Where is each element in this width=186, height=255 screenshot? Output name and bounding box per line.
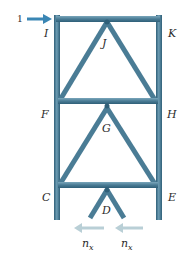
node-label-I: I: [44, 28, 48, 39]
reaction-arrow-left-icon: [74, 223, 104, 233]
joint-J: [105, 20, 110, 25]
joint-G: [105, 104, 110, 109]
node-label-D: D: [102, 205, 111, 216]
member-CG: [60, 108, 107, 184]
node-label-G: G: [102, 123, 111, 134]
load-arrow-icon: [27, 14, 52, 24]
truss-diagram: [0, 0, 186, 255]
member-JH: [107, 22, 155, 100]
reaction-arrow-right-icon: [115, 223, 143, 233]
reaction-label-right: nx: [121, 238, 133, 252]
node-label-J: J: [102, 38, 106, 49]
load-label: 1: [17, 13, 23, 24]
node-label-F: F: [41, 109, 49, 120]
member-GE: [107, 108, 155, 184]
left-column-member: [54, 15, 60, 220]
node-label-E: E: [168, 192, 176, 203]
right-column-member: [156, 15, 162, 220]
reaction-label-left: nx: [82, 238, 94, 252]
member-FJ: [60, 22, 107, 100]
joint-D: [105, 188, 110, 193]
node-label-H: H: [167, 109, 177, 120]
member-FH: [58, 98, 158, 104]
node-label-K: K: [168, 28, 176, 39]
node-label-C: C: [42, 192, 50, 203]
member-CE: [58, 182, 158, 188]
